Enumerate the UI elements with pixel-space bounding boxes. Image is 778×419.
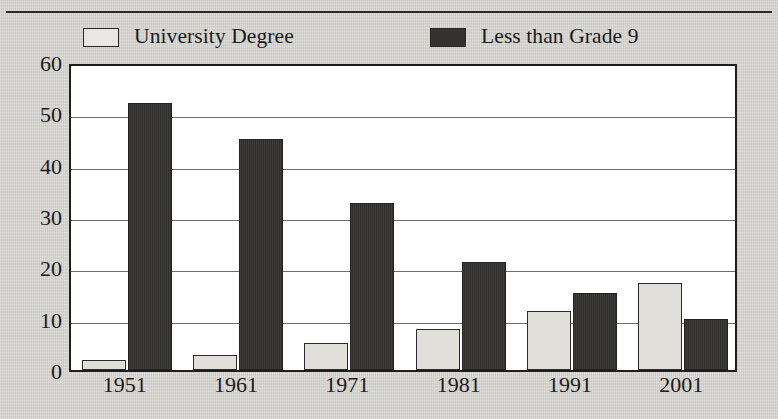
x-axis-tick-label: 2001 xyxy=(659,374,703,396)
bar-group xyxy=(193,66,283,370)
legend-label-university-degree: University Degree xyxy=(134,26,294,48)
legend-item-less-than-grade-9: Less than Grade 9 xyxy=(430,22,639,52)
x-axis-tick-label: 1991 xyxy=(548,374,592,396)
y-axis-tick-label: 40 xyxy=(2,156,62,178)
y-axis-tick-label: 10 xyxy=(2,310,62,332)
bar-group xyxy=(304,66,394,370)
bar-group xyxy=(82,66,172,370)
x-axis-tick-label: 1961 xyxy=(214,374,258,396)
bar-less-than-grade-9-2001 xyxy=(684,319,728,370)
y-axis-tick-label: 50 xyxy=(2,104,62,126)
bar-less-than-grade-9-1951 xyxy=(128,103,172,370)
light-swatch-icon xyxy=(83,28,119,47)
bar-less-than-grade-9-1991 xyxy=(573,293,617,370)
bar-university-degree-1951 xyxy=(82,360,126,370)
x-axis-tick-label: 1971 xyxy=(325,374,369,396)
bar-less-than-grade-9-1961 xyxy=(239,139,283,370)
bar-university-degree-1961 xyxy=(193,355,237,370)
dark-swatch-icon xyxy=(430,28,466,47)
bar-university-degree-1971 xyxy=(304,343,348,370)
x-axis-tick-label: 1951 xyxy=(103,374,147,396)
bar-university-degree-1991 xyxy=(527,311,571,370)
bar-university-degree-2001 xyxy=(638,283,682,370)
bar-university-degree-1981 xyxy=(416,329,460,370)
bar-group xyxy=(638,66,728,370)
y-axis-tick-label: 60 xyxy=(2,53,62,75)
plot-area xyxy=(71,66,735,370)
y-axis-tick-label: 0 xyxy=(2,361,62,383)
y-axis-tick-label: 30 xyxy=(2,207,62,229)
bar-less-than-grade-9-1971 xyxy=(350,203,394,370)
bar-group xyxy=(416,66,506,370)
y-axis-tick-labels: 0102030405060 xyxy=(0,64,62,372)
x-axis-tick-label: 1981 xyxy=(437,374,481,396)
bar-group xyxy=(527,66,617,370)
legend-label-less-than-grade-9: Less than Grade 9 xyxy=(481,26,639,48)
x-axis-tick-labels: 195119611971198119912001 xyxy=(69,374,737,408)
chart-legend: University Degree Less than Grade 9 xyxy=(0,22,778,56)
bar-less-than-grade-9-1981 xyxy=(462,262,506,370)
y-axis-tick-label: 20 xyxy=(2,258,62,280)
plot-frame xyxy=(69,64,737,372)
top-horizontal-rule xyxy=(6,11,772,13)
legend-item-university-degree: University Degree xyxy=(83,22,294,52)
